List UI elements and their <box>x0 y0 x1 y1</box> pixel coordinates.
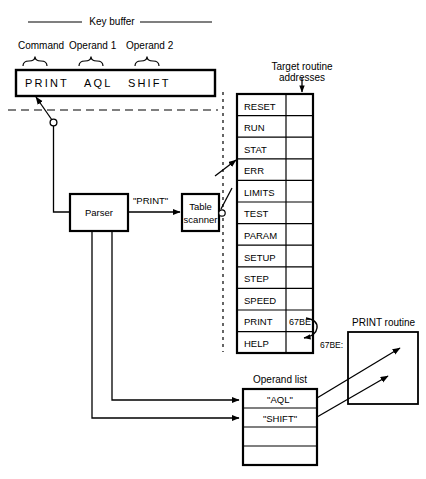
table-scanner-label-line2: scanner <box>180 215 221 225</box>
table-scanner-box-shape <box>182 194 219 231</box>
target-addresses-label-line2: addresses <box>258 73 346 83</box>
operand-list-row: "SHIFT" <box>243 414 317 424</box>
parser-to-operand-row-2 <box>92 231 239 418</box>
buffer-header-operand-1: Operand 1 <box>69 41 116 51</box>
buffer-to-parser-line <box>54 126 71 212</box>
parsed-command-edge-label: "PRINT" <box>133 196 168 206</box>
operand-list-row: "AQL" <box>243 395 317 405</box>
command-table-row-command: ERR <box>244 166 264 176</box>
command-table-row-command: STAT <box>244 145 267 155</box>
diagram-vector-layer <box>0 0 426 479</box>
command-table-row-command: STEP <box>244 274 269 284</box>
brace-operand-2 <box>135 57 159 67</box>
buffer-header-command: Command <box>18 41 64 51</box>
command-table-row-command: RUN <box>244 123 265 133</box>
key-buffer-contents: PRINT AQL SHIFT <box>25 78 171 89</box>
command-table-row-command: SETUP <box>244 253 276 263</box>
operand-list-title: Operand list <box>243 375 317 385</box>
command-table-row-command: TEST <box>244 209 268 219</box>
command-table-row-command: RESET <box>244 102 276 112</box>
command-table-row-command: SPEED <box>244 296 276 306</box>
buffer-callout-pointer <box>36 97 57 126</box>
print-routine-label: PRINT routine <box>352 318 415 328</box>
scanner-to-table-pointer <box>219 188 232 216</box>
command-table-row-address: 67BE <box>289 318 311 327</box>
command-table-row-command: LIMITS <box>244 188 275 198</box>
brace-command <box>23 57 47 67</box>
command-table-row-command: PRINT <box>244 317 273 327</box>
buffer-header-operand-2: Operand 2 <box>126 41 173 51</box>
table-entry-arrow <box>215 160 236 176</box>
parser-to-operand-row-1 <box>112 231 239 400</box>
command-table-row-command: PARAM <box>244 231 277 241</box>
target-addresses-label-line1: Target routine <box>258 62 346 72</box>
parser-box-label: Parser <box>70 208 128 218</box>
table-scanner-label-line1: Table <box>182 202 219 212</box>
command-table-row-command: HELP <box>244 339 269 349</box>
address-reference-label: 67BE: <box>320 341 343 350</box>
key-buffer-title: Key buffer <box>86 17 138 27</box>
field-braces <box>23 57 159 67</box>
parser-table-scanner-diagram: Key buffer Command Operand 1 Operand 2 P… <box>0 0 426 479</box>
brace-operand-1 <box>79 57 103 67</box>
